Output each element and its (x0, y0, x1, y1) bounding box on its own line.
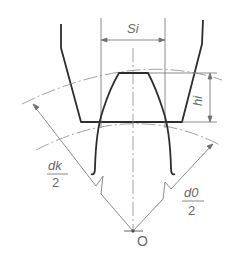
hi-dimension (208, 73, 212, 122)
si-label: Si (127, 21, 140, 36)
center-label: O (137, 233, 148, 249)
d0-denominator: 2 (188, 203, 195, 218)
d0-numerator: d0 (184, 185, 199, 200)
gear-tooth-diagram: Si hi O dk 2 d0 2 (0, 0, 234, 268)
dk-denominator: 2 (52, 175, 59, 190)
si-dimension (101, 38, 165, 42)
center-mark (124, 230, 143, 232)
pitch-circle-arc (36, 124, 220, 150)
dk-numerator: dk (48, 158, 63, 173)
pitch-radius-line (133, 144, 213, 231)
hi-label: hi (190, 95, 205, 106)
